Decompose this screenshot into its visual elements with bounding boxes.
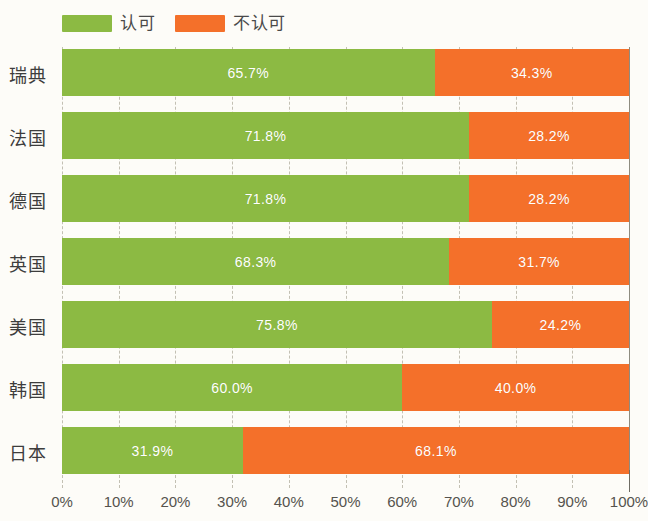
bar-row: 65.7%34.3% bbox=[62, 49, 629, 96]
bar-row: 75.8%24.2% bbox=[62, 301, 629, 348]
bar-segment-approve[interactable]: 60.0% bbox=[62, 364, 402, 411]
category-label-6: 韩国 bbox=[0, 376, 56, 402]
bar-segment-approve[interactable]: 75.8% bbox=[62, 301, 492, 348]
x-tick-100: 100% bbox=[610, 493, 648, 510]
legend-item-disapprove[interactable]: 不认可 bbox=[175, 15, 286, 32]
legend-swatch-disapprove bbox=[175, 15, 225, 32]
bar-value-approve: 71.8% bbox=[245, 191, 287, 207]
x-tick-80: 80% bbox=[501, 493, 531, 510]
legend-swatch-approve bbox=[62, 15, 112, 32]
bar-value-disapprove: 24.2% bbox=[540, 317, 582, 333]
legend-item-approve[interactable]: 认可 bbox=[62, 15, 155, 32]
bar-segment-disapprove[interactable]: 31.7% bbox=[449, 238, 629, 285]
x-tick-60: 60% bbox=[387, 493, 417, 510]
bar-segment-approve[interactable]: 68.3% bbox=[62, 238, 449, 285]
category-label-7: 日本 bbox=[0, 439, 56, 465]
category-label-1: 瑞典 bbox=[0, 61, 56, 87]
bar-value-approve: 60.0% bbox=[211, 380, 253, 396]
bar-row: 71.8%28.2% bbox=[62, 175, 629, 222]
gridline-100 bbox=[629, 47, 631, 488]
bar-segment-approve[interactable]: 31.9% bbox=[62, 427, 243, 474]
plot-area: 65.7%34.3%71.8%28.2%71.8%28.2%68.3%31.7%… bbox=[62, 47, 629, 488]
legend-label-disapprove: 不认可 bbox=[233, 15, 286, 32]
x-tick-30: 30% bbox=[217, 493, 247, 510]
bar-segment-approve[interactable]: 71.8% bbox=[62, 112, 469, 159]
category-label-4: 英国 bbox=[0, 250, 56, 276]
bar-segment-approve[interactable]: 65.7% bbox=[62, 49, 435, 96]
bar-value-disapprove: 34.3% bbox=[511, 65, 553, 81]
axis-end-tick bbox=[629, 470, 630, 492]
bar-value-approve: 71.8% bbox=[245, 128, 287, 144]
bar-segment-disapprove[interactable]: 24.2% bbox=[492, 301, 629, 348]
x-tick-90: 90% bbox=[557, 493, 587, 510]
bar-value-disapprove: 28.2% bbox=[528, 128, 570, 144]
bar-value-disapprove: 28.2% bbox=[528, 191, 570, 207]
x-axis-labels: 0%10%20%30%40%50%60%70%80%90%100% bbox=[0, 493, 646, 517]
bar-segment-disapprove[interactable]: 68.1% bbox=[243, 427, 629, 474]
x-tick-70: 70% bbox=[444, 493, 474, 510]
bar-value-disapprove: 40.0% bbox=[495, 380, 537, 396]
bar-row: 71.8%28.2% bbox=[62, 112, 629, 159]
bar-segment-disapprove[interactable]: 28.2% bbox=[469, 175, 629, 222]
x-tick-10: 10% bbox=[104, 493, 134, 510]
bar-value-approve: 31.9% bbox=[132, 443, 174, 459]
bar-row: 31.9%68.1% bbox=[62, 427, 629, 474]
x-tick-20: 20% bbox=[160, 493, 190, 510]
bar-row: 60.0%40.0% bbox=[62, 364, 629, 411]
bar-value-approve: 75.8% bbox=[256, 317, 298, 333]
bar-segment-disapprove[interactable]: 40.0% bbox=[402, 364, 629, 411]
bar-row: 68.3%31.7% bbox=[62, 238, 629, 285]
legend-label-approve: 认可 bbox=[120, 15, 155, 32]
category-label-5: 美国 bbox=[0, 313, 56, 339]
bar-value-disapprove: 31.7% bbox=[518, 254, 560, 270]
x-tick-0: 0% bbox=[51, 493, 73, 510]
bar-value-disapprove: 68.1% bbox=[415, 443, 457, 459]
bar-segment-disapprove[interactable]: 34.3% bbox=[435, 49, 629, 96]
bar-segment-approve[interactable]: 71.8% bbox=[62, 175, 469, 222]
bar-value-approve: 68.3% bbox=[235, 254, 277, 270]
chart-legend: 认可 不认可 bbox=[62, 10, 306, 36]
bar-segment-disapprove[interactable]: 28.2% bbox=[469, 112, 629, 159]
x-tick-50: 50% bbox=[330, 493, 360, 510]
x-tick-40: 40% bbox=[274, 493, 304, 510]
category-label-3: 德国 bbox=[0, 187, 56, 213]
category-label-2: 法国 bbox=[0, 124, 56, 150]
bar-value-approve: 65.7% bbox=[227, 65, 269, 81]
